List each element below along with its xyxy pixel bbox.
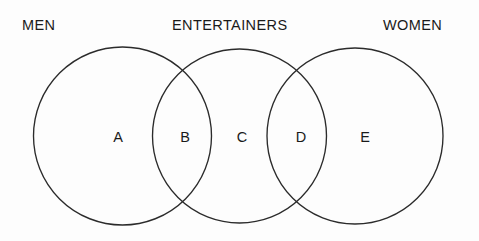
region-label-c: C [237,129,247,145]
region-label-a: A [113,129,123,145]
set-label-men: MEN [22,17,55,33]
circle-women [267,48,443,224]
venn-diagram: MEN ENTERTAINERS WOMEN A B C D E [0,0,479,241]
region-label-b: B [180,129,190,145]
set-label-women: WOMEN [383,17,442,33]
region-label-d: D [296,129,306,145]
region-label-e: E [360,129,370,145]
set-label-entertainers: ENTERTAINERS [172,17,287,33]
venn-diagram-canvas: MEN ENTERTAINERS WOMEN A B C D E [0,0,479,241]
